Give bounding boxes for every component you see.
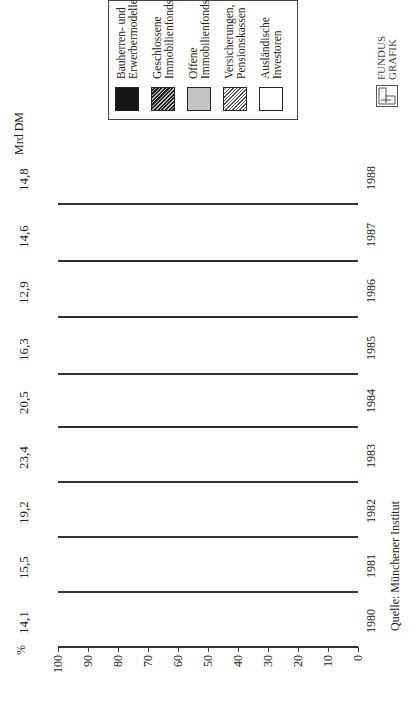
x-category-label: 1984 [364,389,379,413]
legend-label: Offene Immobilienfonds [187,0,211,79]
bar-total-label: 23,4 [16,446,32,469]
legend-item: Ausländische Investoren [259,17,283,111]
chart-stage: % 0102030405060708090100 Mrd DM 198014,1… [0,0,414,703]
legend-swatch [115,87,139,111]
bar-1980 [58,646,358,648]
unit-label: Mrd DM [12,112,27,155]
y-tick-label: 80 [111,655,126,683]
bar-total-label: 15,5 [16,556,32,579]
bar-total-label: 20,5 [16,391,32,414]
legend-item: Geschlossene Immobilienfonds [151,0,175,111]
y-tick-label: 50 [201,655,216,683]
x-category-label: 1982 [364,499,379,523]
legend-label: Bauherren- und Erwerbermodelle [115,0,139,79]
legend-label: Geschlossene Immobilienfonds [151,0,175,79]
legend-swatch [151,87,175,111]
bar-1988 [58,203,358,205]
bar-1982 [58,536,358,538]
fundus-grafik-logo: FUNDUS GRAFIK [376,36,398,107]
y-tick-label: 60 [171,655,186,683]
bar-total-label: 19,2 [16,501,32,524]
source-note: Quelle: Münchener Institut [388,501,403,631]
x-category-label: 1987 [364,223,379,247]
y-tick-label: 30 [261,655,276,683]
bar-1981 [58,591,358,593]
y-tick [358,647,359,652]
bar-1983 [58,481,358,483]
percent-axis-label: % [14,645,29,655]
x-category-label: 1981 [364,554,379,578]
bar-1986 [58,316,358,318]
logo-text: FUNDUS GRAFIK [376,36,398,80]
x-category-label: 1983 [364,444,379,468]
bar-1987 [58,260,358,262]
legend-swatch [259,87,283,111]
y-tick-label: 70 [141,655,156,683]
x-category-label: 1988 [364,166,379,190]
y-tick-label: 100 [51,655,66,683]
y-tick-label: 90 [81,655,96,683]
logo-mark-icon [376,85,398,107]
x-category-label: 1985 [364,336,379,360]
bar-total-label: 14,8 [16,168,32,191]
legend: Ausländische InvestorenVersicherungen, P… [108,0,298,120]
bar-total-label: 14,1 [16,611,32,634]
bar-total-label: 14,6 [16,225,32,248]
legend-label: Ausländische Investoren [259,17,283,79]
y-tick-label: 40 [231,655,246,683]
legend-item: Offene Immobilienfonds [187,0,211,111]
bar-1985 [58,373,358,375]
y-tick-label: 20 [291,655,306,683]
legend-item: Versicherungen, Pensionskassen [223,5,247,111]
bar-total-label: 16,3 [16,338,32,361]
y-tick-label: 10 [321,655,336,683]
legend-swatch [223,87,247,111]
bar-total-label: 12,9 [16,281,32,304]
legend-label: Versicherungen, Pensionskassen [223,5,247,79]
legend-item: Bauherren- und Erwerbermodelle [115,0,139,111]
bar-1984 [58,426,358,428]
legend-swatch [187,87,211,111]
y-tick-label: 0 [351,655,366,683]
x-category-label: 1986 [364,279,379,303]
x-category-label: 1980 [364,609,379,633]
